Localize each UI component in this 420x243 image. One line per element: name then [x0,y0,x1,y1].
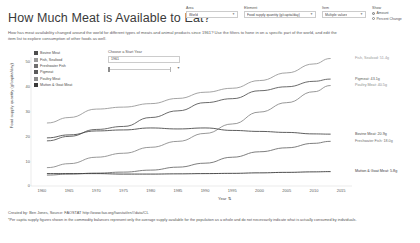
y-axis-tick-label: 40 [18,84,30,89]
x-axis-tick-label: 1970 [92,188,101,193]
x-axis-tick-label: 1975 [119,188,128,193]
x-axis-tick-label: 2000 [255,188,264,193]
x-axis-tick-label: 1980 [146,188,155,193]
series-line[interactable] [47,86,330,168]
y-axis-tick-label: 10 [18,159,30,164]
series-end-label: Freshwater Fish: 18.0g [355,139,393,143]
y-axis-tick-label: 0 [18,183,30,188]
x-axis-tick-label: 1960 [37,188,46,193]
y-axis-tick-label: 30 [18,109,30,114]
series-end-label: Pigmeat: 43.1g [355,77,380,81]
x-axis-title: Year ⇅ [218,196,231,201]
x-axis-tick-label: 1965 [65,188,74,193]
y-axis-tick-label: 20 [18,134,30,139]
x-axis-tick-label: 2015 [337,188,346,193]
dashboard-canvas: How Much Meat is Available to Eat? How h… [0,0,420,243]
x-axis-tick-label: 2005 [282,188,291,193]
series-end-label: Mutton & Goat Meat: 5.8g [355,169,397,173]
x-axis-tick-label: 1995 [228,188,237,193]
x-axis-tick-label: 2010 [309,188,318,193]
x-axis-tick-label: 1990 [201,188,210,193]
sort-icon: ⇅ [228,196,231,201]
credit-line: Created by: Ben Jones, Source: FAOSTAT h… [8,210,412,215]
series-end-label: Bovine Meat: 20.9g [355,132,387,136]
footnote: *Per capita supply figures shown in the … [8,218,412,223]
series-line[interactable] [47,128,330,138]
series-end-label: Poultry Meat: 40.5g [355,83,387,87]
footer: Created by: Ben Jones, Source: FAOSTAT h… [8,210,412,223]
series-line[interactable] [47,58,330,123]
series-end-label: Fish, Seafood: 51.4g [355,56,389,60]
x-axis-tick-label: 1985 [173,188,182,193]
line-chart-plot [0,0,420,243]
y-axis-tick-label: 50 [18,59,30,64]
